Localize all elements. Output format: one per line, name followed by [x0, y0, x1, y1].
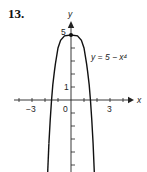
x-axis-label: x — [136, 95, 142, 105]
x-tick-label-neg3: −3 — [26, 104, 36, 114]
vertex-point — [69, 33, 73, 37]
equation-label: y = 5 − x⁴ — [90, 52, 128, 62]
graph: y x 5 1 −3 0 3 y = 5 − x⁴ — [0, 0, 147, 172]
y-axis-arrow-icon — [68, 21, 74, 28]
x-tick-label-3: 3 — [107, 104, 112, 114]
x-axis-arrow-icon — [128, 97, 134, 103]
y-tick-label-5: 5 — [61, 27, 66, 37]
y-tick-label-1: 1 — [64, 82, 69, 92]
curve-left-tail — [48, 144, 49, 172]
y-axis-label: y — [67, 9, 73, 19]
x-tick-label-0: 0 — [63, 104, 68, 114]
y-ticks — [71, 48, 75, 165]
curve-y-equals-5-minus-x4 — [49, 35, 94, 172]
